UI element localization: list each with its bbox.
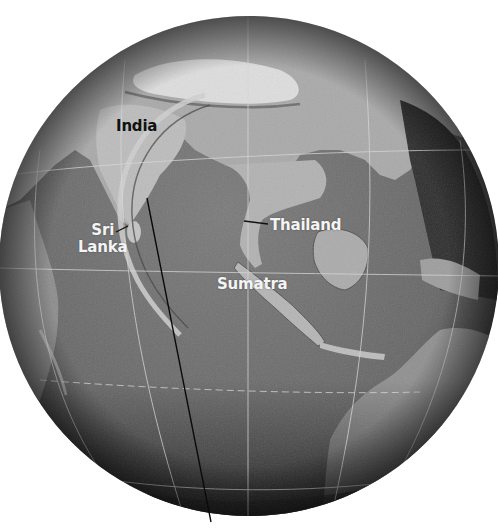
globe-map: India Sri Lanka Thailand Sumatra xyxy=(0,0,498,531)
limb-shade xyxy=(0,16,498,516)
globe-illustration xyxy=(0,0,498,531)
